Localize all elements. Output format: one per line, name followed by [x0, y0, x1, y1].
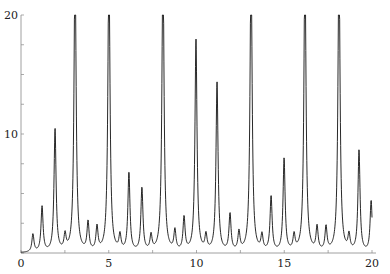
data-series-line — [21, 15, 372, 252]
x-tick-label: 5 — [105, 257, 112, 270]
x-tick-label: 15 — [277, 257, 291, 270]
x-tick-label: 20 — [365, 257, 379, 270]
line-chart: 051015201020 — [0, 0, 390, 274]
x-tick-label: 0 — [18, 257, 25, 270]
x-tick-label: 10 — [190, 257, 204, 270]
y-tick-label: 20 — [4, 9, 18, 22]
y-tick-label: 10 — [4, 128, 18, 141]
axes: 051015201020 — [4, 9, 379, 270]
